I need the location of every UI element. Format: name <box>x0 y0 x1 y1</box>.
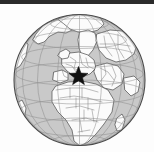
globe-locator-figure: Orthographic globe centred on Europe and… <box>0 0 154 152</box>
globe-svg <box>0 0 154 152</box>
globe-stage <box>0 0 154 152</box>
